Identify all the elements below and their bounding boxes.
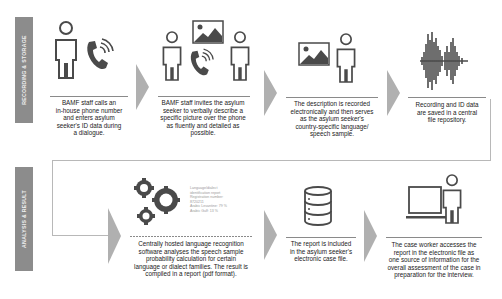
step-1-phone bbox=[84, 38, 114, 72]
step-3-icons bbox=[298, 26, 358, 92]
step-2-caption: BAMF staff invites the asylum seeker to … bbox=[152, 99, 254, 137]
section-band-recording: RECORDING & STORAGE bbox=[15, 17, 33, 123]
step-4-divider bbox=[408, 97, 486, 98]
step-4-icons bbox=[418, 30, 470, 92]
step-6-divider bbox=[286, 237, 356, 238]
database-icon bbox=[303, 186, 333, 226]
person-icon bbox=[160, 28, 184, 84]
person-icon bbox=[52, 20, 80, 80]
step-7-caption: The case worker accesses the report in t… bbox=[380, 241, 488, 279]
step-5-caption: Centrally hosted language recognition so… bbox=[124, 240, 258, 278]
connector-frame-left bbox=[52, 160, 53, 236]
section-label: ANALYSIS & RESULT bbox=[21, 190, 27, 248]
step-1-caption: BAMF staff calls an in-house phone numbe… bbox=[46, 99, 132, 137]
step-2-divider bbox=[158, 96, 250, 97]
chevron-arrow-icon bbox=[264, 210, 277, 260]
chevron-arrow-icon bbox=[387, 70, 400, 116]
chevron-arrow-icon bbox=[108, 208, 121, 264]
gears-icon bbox=[134, 178, 182, 228]
section-label: RECORDING & STORAGE bbox=[21, 35, 27, 105]
picture-icon bbox=[192, 20, 224, 44]
phone-icon bbox=[188, 48, 214, 78]
chevron-arrow-icon bbox=[364, 210, 377, 262]
step-3-divider bbox=[286, 97, 378, 98]
step-4-caption: Recording and ID data are saved in a cen… bbox=[402, 101, 492, 124]
phone-icon bbox=[84, 38, 114, 72]
picture-icon bbox=[298, 42, 330, 66]
step-1-icons bbox=[52, 20, 80, 80]
section-band-analysis: ANALYSIS & RESULT bbox=[15, 167, 33, 271]
step-5-icons bbox=[134, 178, 182, 228]
soundwave-icon bbox=[418, 30, 470, 92]
chevron-arrow-icon bbox=[136, 64, 149, 110]
step-6-icons bbox=[303, 186, 333, 226]
step-6-caption: The report is included in the asylum see… bbox=[282, 240, 360, 263]
step-3-caption: The description is recorded electronical… bbox=[282, 100, 382, 138]
chevron-arrow-icon bbox=[264, 70, 277, 116]
step-7-divider bbox=[386, 237, 482, 238]
connector-frame-top bbox=[52, 160, 491, 161]
step-7-icons bbox=[406, 167, 466, 233]
person-icon bbox=[228, 28, 252, 84]
step-1-divider bbox=[50, 96, 128, 97]
report-preview: Language/dialect identification report R… bbox=[190, 186, 252, 214]
step-2-icons bbox=[160, 20, 252, 92]
person-icon bbox=[334, 26, 358, 90]
connector-frame-bottom bbox=[52, 235, 110, 236]
person-icon bbox=[440, 167, 464, 231]
step-5-divider bbox=[130, 236, 252, 237]
